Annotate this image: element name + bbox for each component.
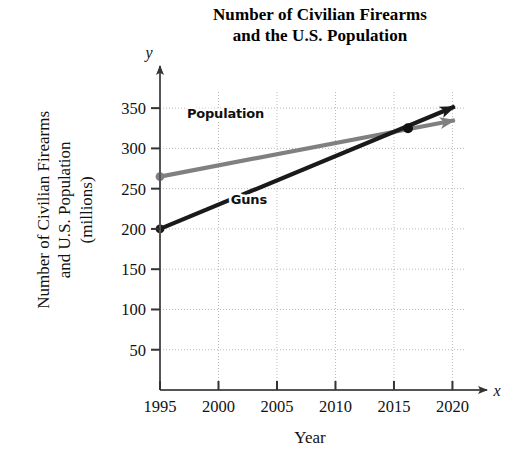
horizontal-gridlines: [160, 108, 464, 350]
y-tick-label: 200: [121, 220, 146, 239]
y-tick-label: 100: [121, 300, 146, 319]
series-label-population: Population: [187, 106, 264, 121]
vertical-gridlines: [218, 90, 452, 390]
x-tick-label: 2010: [319, 397, 352, 416]
y-tick-label: 250: [121, 180, 146, 199]
intersection-point: [403, 123, 413, 133]
y-tick-label: 300: [121, 139, 146, 158]
y-axis-variable-name: y: [143, 44, 153, 62]
plot-area: 50100150200250300350 1995200020052010201…: [0, 0, 516, 463]
y-tick-label: 50: [130, 341, 147, 360]
x-tick-label: 2020: [436, 397, 469, 416]
data-series-layer: [156, 107, 455, 234]
y-tick-label: 150: [121, 260, 146, 279]
series-label-guns: Guns: [231, 192, 268, 207]
x-axis-variable-name: x: [492, 382, 500, 399]
x-tick-label: 1995: [144, 397, 177, 416]
x-tick-label: 2015: [377, 397, 410, 416]
x-tick-label: 2000: [202, 397, 235, 416]
y-tick-label: 350: [121, 99, 146, 118]
x-axis-ticks: 199520002005201020152020: [144, 381, 469, 416]
y-axis-ticks: 50100150200250300350: [121, 99, 160, 360]
x-tick-label: 2005: [260, 397, 293, 416]
chart-figure: Number of Civilian Firearms and the U.S.…: [0, 0, 516, 463]
